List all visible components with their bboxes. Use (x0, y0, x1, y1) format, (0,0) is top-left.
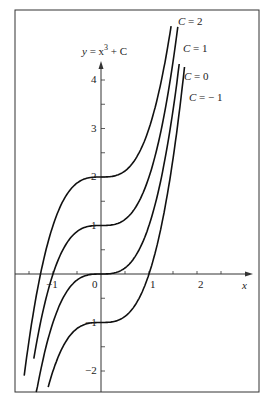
axes (15, 61, 253, 392)
y-tick-label: −1 (85, 317, 97, 328)
y-tick-label: −2 (85, 365, 97, 376)
plot-area (0, 0, 269, 402)
curve-c0 (36, 64, 179, 392)
y-tick-label: 4 (91, 74, 97, 85)
series-label-c-1: C = − 1 (189, 92, 223, 103)
y-tick-label: 3 (91, 123, 97, 134)
x-tick-label: 1 (150, 279, 156, 290)
curves (24, 26, 184, 392)
x-axis-label: x (242, 280, 247, 291)
title-pow: 3 (104, 43, 108, 52)
y-tick-label: 2 (91, 171, 97, 182)
chart-title: y = x3 + C (82, 44, 127, 57)
plot-frame (15, 10, 259, 392)
curve-c1 (34, 27, 178, 359)
x-tick-label: 2 (198, 279, 204, 290)
x-tick-label: −1 (46, 279, 58, 290)
title-y: y (82, 45, 87, 57)
y-tick-label: 1 (91, 220, 97, 231)
series-label-c0: C = 0 (184, 71, 209, 82)
y-axis-arrow-icon (99, 61, 104, 69)
series-label-c2: C = 2 (178, 16, 203, 27)
x-tick-label: 0 (92, 279, 98, 290)
x-axis-arrow-icon (245, 272, 253, 277)
title-eq: = x (90, 45, 104, 57)
title-rest: + C (111, 45, 127, 57)
series-label-c1: C = 1 (183, 43, 208, 54)
